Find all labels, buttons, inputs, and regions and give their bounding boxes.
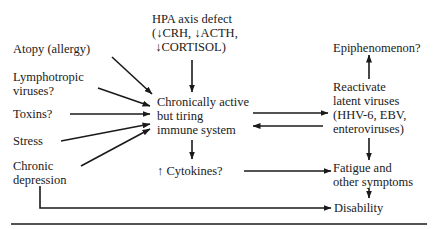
fatigue-line-1: Fatigue and xyxy=(333,161,413,175)
reactivate-line-4: enteroviruses) xyxy=(333,122,406,136)
hpa-line-1: HPA axis defect xyxy=(152,12,238,26)
disability-node: Disability xyxy=(334,201,383,215)
chronic-depression-node: Chronicdepression xyxy=(13,159,66,187)
immune-line-2: but tiring xyxy=(157,109,249,123)
arrow-atopy-to-immune xyxy=(112,57,152,94)
fatigue-node: Fatigue andother symptoms xyxy=(333,161,413,189)
depression-line-2: depression xyxy=(13,173,66,187)
hpa-axis-defect-node: HPA axis defect(↓CRH, ↓ACTH, ↓CORTISOL) xyxy=(152,12,238,54)
arrow-depression-to-disability xyxy=(40,186,331,208)
reactivate-line-2: latent viruses xyxy=(333,94,406,108)
lymphotropic-line-2: viruses? xyxy=(13,84,84,98)
toxins-node: Toxins? xyxy=(13,107,52,121)
hpa-line-2: (↓CRH, ↓ACTH, xyxy=(152,26,238,40)
diagram-canvas: HPA axis defect(↓CRH, ↓ACTH, ↓CORTISOL) … xyxy=(0,0,436,229)
arrow-stress-to-immune xyxy=(61,124,150,141)
epiphenomenon-node: Epiphenomenon? xyxy=(333,41,420,55)
reactivate-line-1: Reactivate xyxy=(333,80,406,94)
reactivate-line-3: (HHV-6, EBV, xyxy=(333,108,406,122)
hpa-line-3: ↓CORTISOL) xyxy=(152,40,238,54)
immune-line-1: Chronically active xyxy=(157,95,249,109)
lymphotropic-line-1: Lymphotropic xyxy=(13,70,84,84)
lymphotropic-viruses-node: Lymphotropicviruses? xyxy=(13,70,84,98)
immune-line-3: immune system xyxy=(157,123,249,137)
arrow-lymphotropic-to-immune xyxy=(98,88,150,106)
immune-system-node: Chronically activebut tiringimmune syste… xyxy=(157,95,249,137)
stress-node: Stress xyxy=(13,134,43,148)
reactivate-latent-viruses-node: Reactivatelatent viruses(HHV-6, EBV,ente… xyxy=(333,80,406,136)
fatigue-line-2: other symptoms xyxy=(333,175,413,189)
cytokines-node: ↑ Cytokines? xyxy=(157,164,223,178)
atopy-node: Atopy (allergy) xyxy=(13,42,90,56)
depression-line-1: Chronic xyxy=(13,159,66,173)
